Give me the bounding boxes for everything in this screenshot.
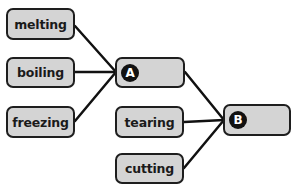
node-a: A (115, 57, 185, 88)
node-boiling: boiling (6, 57, 75, 88)
concept-diagram: melting boiling freezing A tearing cutti… (0, 0, 303, 196)
node-label: freezing (12, 115, 68, 130)
node-label: cutting (125, 161, 174, 176)
node-tearing: tearing (115, 106, 184, 138)
node-label: boiling (17, 65, 64, 80)
node-b: B (223, 104, 291, 136)
connector-a-b (185, 72, 224, 120)
node-label: tearing (125, 115, 175, 130)
node-freezing: freezing (6, 106, 75, 138)
node-label: melting (14, 17, 67, 32)
connector-cutting-b (184, 120, 224, 168)
connector-tearing-b (184, 120, 224, 122)
badge-a: A (121, 64, 139, 82)
badge-b: B (229, 111, 247, 129)
connector-freezing-a (75, 72, 116, 121)
node-cutting: cutting (115, 153, 184, 184)
node-melting: melting (6, 8, 75, 40)
connector-melting-a (75, 26, 116, 72)
